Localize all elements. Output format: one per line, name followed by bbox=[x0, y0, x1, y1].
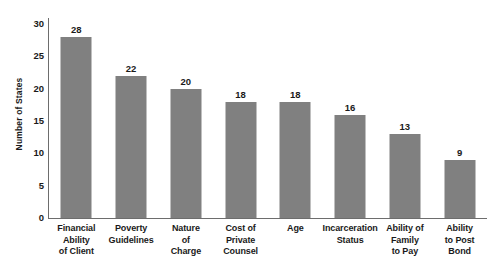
bar-group: 16 bbox=[323, 18, 378, 218]
bar bbox=[116, 76, 147, 218]
x-axis-category-label: PovertyGuidelines bbox=[100, 223, 163, 246]
bar-value-label: 22 bbox=[126, 63, 137, 74]
bar-group: 28 bbox=[49, 18, 104, 218]
x-axis-category-label: Ability ofFamilyto Pay bbox=[374, 223, 437, 258]
bar-value-label: 20 bbox=[181, 76, 192, 87]
bar bbox=[225, 102, 256, 218]
bar-value-label: 13 bbox=[400, 121, 411, 132]
bar bbox=[335, 115, 366, 218]
bar-value-label: 16 bbox=[345, 102, 356, 113]
x-axis-category-label: Cost ofPrivateCounsel bbox=[209, 223, 272, 258]
bar bbox=[170, 89, 201, 218]
y-axis-tick-label: 0 bbox=[20, 213, 44, 223]
bar-value-label: 18 bbox=[235, 89, 246, 100]
y-axis-tick-label: 20 bbox=[20, 84, 44, 94]
x-axis-category-label: NatureofCharge bbox=[155, 223, 218, 258]
x-axis-category-label: Age bbox=[264, 223, 327, 235]
x-axis-line bbox=[48, 218, 487, 219]
plot-area: 282220181816139 bbox=[49, 18, 487, 218]
bar-group: 18 bbox=[213, 18, 268, 218]
x-axis-category-label: FinancialAbilityof Client bbox=[45, 223, 108, 258]
y-axis-tick-label: 5 bbox=[20, 181, 44, 191]
bar-group: 22 bbox=[104, 18, 159, 218]
y-axis-tick-label: 10 bbox=[20, 148, 44, 158]
y-axis-tick-label: 25 bbox=[20, 51, 44, 61]
y-axis-tick-label: 15 bbox=[20, 116, 44, 126]
x-axis-category-labels: FinancialAbilityof ClientPovertyGuidelin… bbox=[49, 223, 487, 273]
y-axis-tick-label: 30 bbox=[20, 19, 44, 29]
bar bbox=[444, 160, 475, 218]
x-axis-category-label: IncarcerationStatus bbox=[319, 223, 382, 246]
bar-chart: Number of States 051015202530 2822201818… bbox=[0, 0, 492, 274]
x-axis-category-label: Abilityto PostBond bbox=[428, 223, 491, 258]
bar-group: 18 bbox=[268, 18, 323, 218]
bar-group: 13 bbox=[378, 18, 433, 218]
bar-value-label: 18 bbox=[290, 89, 301, 100]
bar-value-label: 9 bbox=[457, 147, 462, 158]
bar bbox=[61, 37, 92, 218]
bar-group: 9 bbox=[432, 18, 487, 218]
bar-value-label: 28 bbox=[71, 24, 82, 35]
bar bbox=[280, 102, 311, 218]
bar-group: 20 bbox=[159, 18, 214, 218]
bar bbox=[389, 134, 420, 218]
y-axis-tick-labels: 051015202530 bbox=[20, 0, 44, 274]
